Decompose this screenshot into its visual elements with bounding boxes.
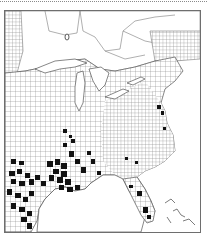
bahamas xyxy=(165,199,195,225)
top-dotted-rule xyxy=(0,1,207,2)
map-frame xyxy=(4,10,201,233)
distribution-map xyxy=(5,11,200,232)
